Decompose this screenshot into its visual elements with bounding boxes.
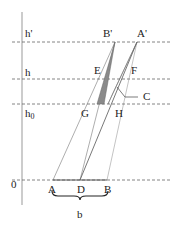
label-F: F — [131, 64, 137, 76]
label-A-prime: A' — [137, 27, 147, 39]
label-B: B — [104, 183, 111, 195]
leader-line-C — [117, 87, 138, 97]
label-0: 0 — [11, 178, 17, 190]
label-H: H — [115, 107, 123, 119]
diagram: h' h h0 0 B' A' E F C G H A D B b — [0, 0, 174, 234]
label-h-prime: h' — [25, 27, 33, 39]
label-E: E — [94, 64, 101, 76]
label-A: A — [48, 183, 56, 195]
label-C: C — [143, 90, 150, 102]
label-B-prime: B' — [103, 27, 112, 39]
label-b: b — [77, 208, 83, 220]
label-h: h — [25, 66, 31, 78]
label-G: G — [81, 107, 89, 119]
label-h0: h0 — [25, 107, 35, 121]
label-D: D — [77, 183, 85, 195]
